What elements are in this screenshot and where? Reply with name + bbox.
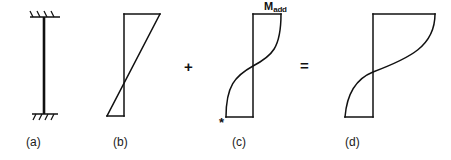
panel-d-s-curve — [345, 14, 435, 117]
panel-b-diagonal — [107, 14, 160, 116]
plus-operator: + — [184, 59, 193, 74]
asterisk-marker: * — [219, 116, 224, 129]
top-support-hatch-3 — [44, 11, 47, 17]
panel-c-additional-moment-diagram — [226, 14, 281, 117]
bottom-support-hatch-4 — [51, 114, 54, 120]
caption-a: (a) — [26, 136, 41, 148]
caption-d: (d) — [345, 136, 360, 148]
caption-c: (c) — [232, 136, 246, 148]
bottom-support-hatch-2 — [39, 114, 42, 120]
top-support-hatch-1 — [30, 11, 33, 17]
panel-b-linear-moment-diagram — [107, 14, 160, 116]
bending-moment-figure: Madd * + = (a) (b) (c) (d) — [0, 0, 451, 160]
m-add-label-subscript: add — [273, 5, 287, 14]
m-add-label: Madd — [264, 1, 287, 12]
m-add-label-main: M — [264, 0, 273, 12]
top-support-hatch-2 — [37, 11, 40, 17]
bottom-support-hatch-1 — [33, 114, 36, 120]
caption-b: (b) — [113, 136, 128, 148]
bottom-support-hatch-3 — [45, 114, 48, 120]
figure-vector-layer — [0, 0, 451, 160]
panel-a-column-elevation — [30, 11, 60, 120]
equals-operator: = — [300, 58, 309, 73]
panel-d-total-moment-diagram — [345, 14, 435, 117]
top-support-hatch-4 — [51, 11, 54, 17]
